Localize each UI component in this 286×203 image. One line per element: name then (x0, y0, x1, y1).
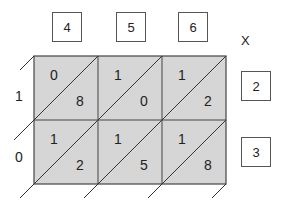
cell-ones: 8 (204, 157, 212, 173)
cell-ones: 8 (76, 93, 84, 109)
cell-ones: 0 (140, 93, 148, 109)
cell-ones: 2 (76, 157, 84, 173)
cell-tens: 1 (114, 131, 122, 147)
cell-tens: 1 (178, 67, 186, 83)
left-sum-digit: 0 (15, 149, 23, 165)
cell-tens: 1 (50, 131, 58, 147)
cell-tens: 1 (178, 131, 186, 147)
cell-tens: 1 (114, 67, 122, 83)
cell-tens: 0 (50, 67, 58, 83)
cell-ones: 5 (140, 157, 148, 173)
lattice-grid: 0 8 1 0 1 2 1 2 1 5 1 8 1 0 (0, 0, 286, 203)
left-sum-digit: 1 (15, 88, 23, 104)
cell-ones: 2 (204, 93, 212, 109)
